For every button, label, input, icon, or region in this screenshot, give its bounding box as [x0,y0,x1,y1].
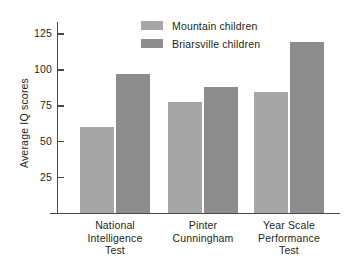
bar [254,92,288,213]
bar [204,87,238,213]
bar [116,74,150,213]
y-tick-label: 125 [12,27,52,39]
x-axis-category-label-line: Year Scale [234,219,344,232]
plot-area [58,22,340,213]
bar-group [80,22,150,213]
x-axis-category-label-line: Test [234,244,344,257]
bar [168,102,202,213]
y-tick-label: 75 [12,99,52,111]
bar-group [168,22,238,213]
iq-scores-bar-chart: Average IQ scores 255075100125 Mountain … [0,0,347,272]
y-tick-label: 25 [12,171,52,183]
y-tick-label: 50 [12,135,52,147]
x-axis-category-label: Year ScalePerformanceTest [234,219,344,257]
x-axis-line [50,213,340,214]
bar [80,127,114,213]
y-tick-label: 100 [12,63,52,75]
x-axis-category-label-line: Test [60,244,170,257]
bar [290,42,324,213]
x-axis-category-label-line: Performance [234,232,344,245]
bar-group [254,22,324,213]
